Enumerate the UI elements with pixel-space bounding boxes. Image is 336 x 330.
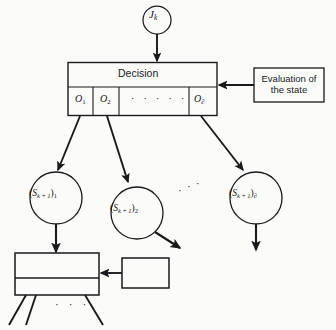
diagram-canvas: Jk Decision O1 O2 · · · · · O∂ Evaluatio…: [0, 0, 336, 330]
state-node-label-1: (Sk + 1)1: [29, 188, 57, 199]
lower-branch-leg-1: [9, 295, 26, 325]
evaluation-box-line2: the state: [271, 84, 307, 95]
lower-branch-leg-2: [26, 295, 36, 325]
cost-node-label: Jk: [149, 8, 157, 22]
evaluation-box-line1: Evaluation of: [262, 73, 317, 84]
decision-cell-subscript-1: 1: [82, 98, 85, 105]
arrow-od-to-stated: [201, 116, 243, 170]
cost-node-subscript: k: [154, 13, 157, 22]
decision-cell-subscript-d: ∂: [201, 98, 204, 105]
decision-cell-label-d: O∂: [194, 93, 205, 106]
diagram-vector-layer: [0, 0, 336, 330]
evaluation-box-label: Evaluation of the state: [258, 74, 320, 95]
decision-cell-label-1: O1: [75, 93, 86, 106]
state-node-2-inner-subscript: k + 1: [118, 207, 132, 214]
state-node-1-outer-subscript: 1: [54, 192, 57, 199]
state-node-2-outer-subscript: 2: [135, 207, 138, 214]
arrow-state2-outgoing: [155, 232, 180, 248]
lower-evaluation-box: [122, 258, 169, 288]
lower-branch-ellipsis: · · ·: [55, 298, 90, 310]
branch-ellipsis-dot-3: ·: [196, 177, 200, 189]
arrow-o1-to-state1: [58, 116, 80, 170]
state-node-label-d: (Sk + 1)∂: [229, 188, 257, 199]
state-node-1-inner-subscript: k + 1: [37, 192, 51, 199]
state-node-d-inner-subscript: k + 1: [237, 192, 251, 199]
state-node-label-2: (Sk + 1)2: [110, 203, 138, 214]
decision-cells-ellipsis: · · · · ·: [131, 93, 188, 104]
lower-decision-box: [15, 253, 99, 295]
branch-ellipsis-dot-2: ·: [187, 180, 191, 192]
decision-cell-subscript-2: 2: [107, 98, 110, 105]
arrow-o2-to-state2: [107, 116, 128, 182]
decision-box-label: Decision: [118, 68, 158, 80]
decision-cell-label-2: O2: [100, 93, 111, 106]
branch-ellipsis-dot-1: ·: [178, 184, 182, 196]
state-node-d-outer-subscript: ∂: [254, 192, 257, 199]
